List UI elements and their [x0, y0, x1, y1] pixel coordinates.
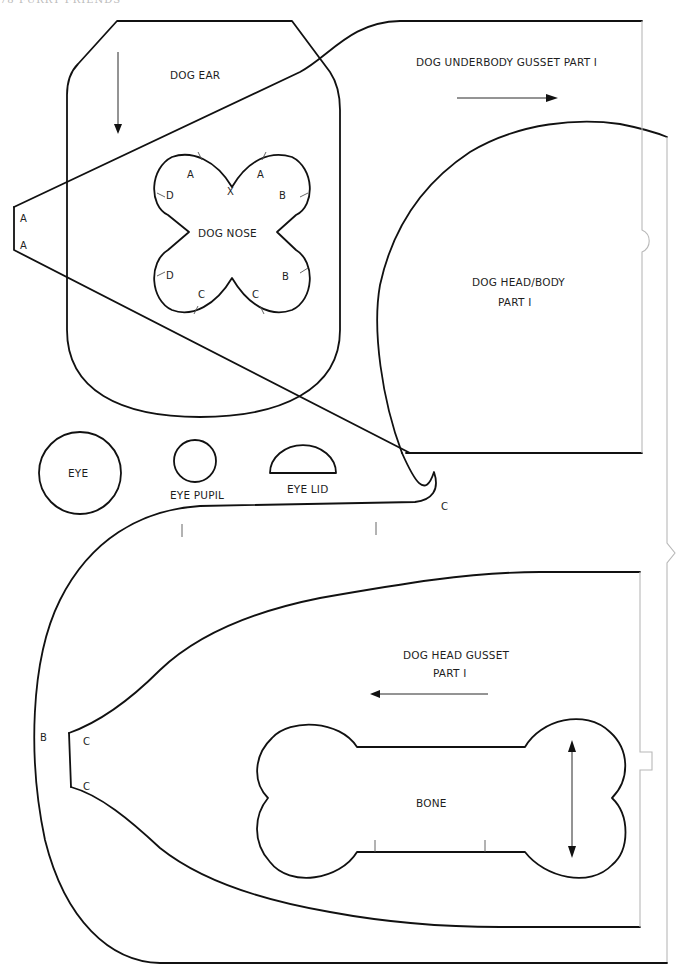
- eye-pupil-label: EYE PUPIL: [170, 490, 224, 501]
- underbody-gusset-label: DOG UNDERBODY GUSSET PART I: [416, 57, 597, 68]
- head-body-piece: [34, 122, 675, 963]
- head-body-mark-c: C: [441, 502, 448, 512]
- bone-label: BONE: [416, 798, 447, 809]
- dog-ear-label: DOG EAR: [170, 70, 220, 81]
- nose-mark-a2: A: [257, 170, 264, 180]
- head-body-label-1: DOG HEAD/BODY: [472, 277, 565, 288]
- head-gusset-piece: [69, 572, 652, 927]
- nose-mark-b1: B: [279, 191, 286, 201]
- head-body-label-2: PART I: [498, 297, 531, 308]
- pattern-sheet: [0, 0, 682, 977]
- eye-lid-shape: [270, 445, 336, 473]
- dog-nose-center-mark: X: [227, 187, 234, 197]
- body-notches: [182, 522, 376, 537]
- nose-mark-c2: C: [252, 290, 259, 300]
- head-gusset-label-1: DOG HEAD GUSSET: [403, 650, 509, 661]
- head-body-mark-b: B: [40, 733, 47, 743]
- head-gusset-label-2: PART I: [433, 668, 466, 679]
- eye-lid-label: EYE LID: [287, 484, 328, 495]
- gusset-mark-a1: A: [20, 214, 27, 224]
- gusset-mark-a2: A: [20, 241, 27, 251]
- nose-mark-d1: D: [166, 191, 174, 201]
- dog-nose-label: DOG NOSE: [198, 228, 257, 239]
- nose-mark-a1: A: [187, 170, 194, 180]
- head-gusset-mark-c1: C: [83, 737, 90, 747]
- nose-mark-d2: D: [166, 271, 174, 281]
- head-gusset-mark-c2: C: [83, 782, 90, 792]
- grain-arrows: [114, 52, 576, 858]
- eye-pupil-circle: [174, 440, 216, 482]
- nose-mark-b2: B: [282, 272, 289, 282]
- underbody-gusset-piece: [14, 21, 649, 453]
- nose-mark-c1: C: [198, 290, 205, 300]
- eye-label: EYE: [68, 468, 88, 479]
